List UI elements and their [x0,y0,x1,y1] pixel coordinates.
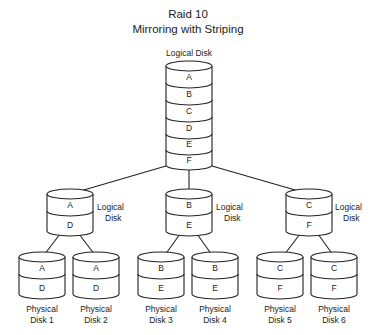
title-line-1: Raid 10 [168,8,208,20]
segment-label: B [186,200,192,210]
mirror-group-3: C F Logical Disk C F Physical Disk 5 C F… [257,189,362,325]
segment-label: B [158,263,164,273]
logical-disk-1-label: Logical [97,202,124,212]
segment-label: D [186,123,192,133]
physical-disk-4-label: Physical [199,304,231,314]
segment-label: C [306,200,312,210]
top-logical-disk: A B C D E F [166,61,212,170]
physical-disk-6-label: Disk 6 [322,315,346,325]
segment-label: A [186,72,192,82]
segment-label: F [331,283,336,293]
physical-disk-2: A D [73,252,119,299]
physical-disk-2-label: Physical [80,304,112,314]
segment-label: F [306,220,311,230]
physical-disk-5-label: Physical [264,304,296,314]
logical-disk-2: B E [166,189,212,236]
logical-disk-3-label: Disk [343,213,360,223]
mirror-group-2: B E Logical Disk B E Physical Disk 3 B E… [138,189,243,325]
logical-disk-2-label: Logical [216,202,243,212]
segment-label: E [186,220,192,230]
mirror-group-1: A D Logical Disk A D Physical Disk 1 A D… [19,189,124,325]
physical-disk-5: C F [257,252,303,299]
physical-disk-2-label: Disk 2 [84,315,108,325]
physical-disk-3: B E [138,252,184,299]
physical-disk-3-label: Disk 3 [149,315,173,325]
top-logical-disk-label: Logical Disk [166,48,213,58]
segment-label: C [331,263,337,273]
physical-disk-4: B E [192,252,238,299]
segment-label: F [186,155,191,165]
physical-disk-6: C F [311,252,357,299]
title-line-2: Mirroring with Striping [132,23,243,35]
segment-label: A [93,263,99,273]
segment-label: C [277,263,283,273]
segment-label: A [39,263,45,273]
segment-label: E [186,139,192,149]
logical-disk-1: A D [47,189,93,236]
segment-label: A [67,200,73,210]
logical-disk-1-label: Disk [105,213,122,223]
segment-label: B [186,89,192,99]
physical-disk-1-label: Disk 1 [30,315,54,325]
logical-disk-3: C F [286,189,332,236]
segment-label: F [277,283,282,293]
logical-disk-3-label: Logical [335,202,362,212]
logical-disk-2-label: Disk [224,213,241,223]
segment-label: D [39,283,45,293]
physical-disk-1: A D [19,252,65,299]
segment-label: E [212,283,218,293]
physical-disk-3-label: Physical [145,304,177,314]
physical-disk-5-label: Disk 5 [268,315,292,325]
segment-label: E [158,283,164,293]
segment-label: D [93,283,99,293]
raid10-diagram: Raid 10 Mirroring with Striping Logical … [0,0,377,335]
physical-disk-1-label: Physical [26,304,58,314]
segment-label: D [67,220,73,230]
physical-disk-4-label: Disk 4 [203,315,227,325]
segment-label: C [186,106,192,116]
segment-label: B [212,263,218,273]
physical-disk-6-label: Physical [318,304,350,314]
